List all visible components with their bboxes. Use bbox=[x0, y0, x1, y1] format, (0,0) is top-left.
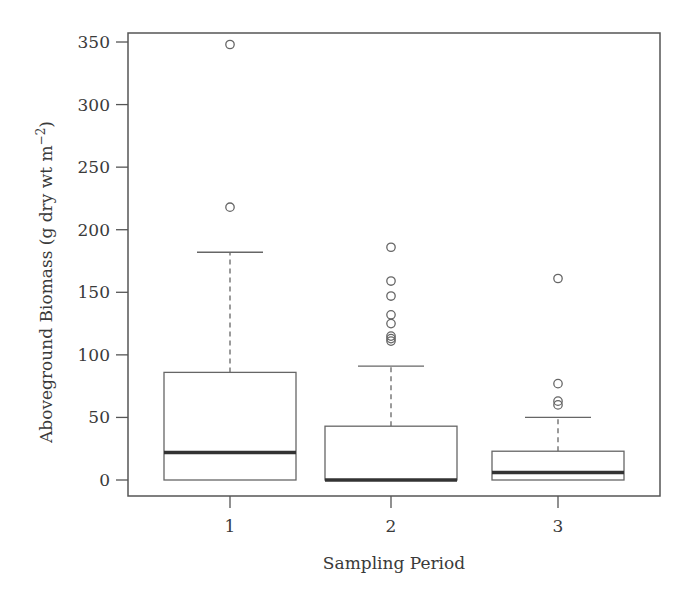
iqr-box bbox=[164, 372, 296, 480]
box-period-2 bbox=[325, 243, 457, 480]
y-tick-label: 50 bbox=[88, 407, 110, 427]
x-tick-label: 3 bbox=[553, 516, 564, 536]
y-axis: 050100150200250300350 bbox=[78, 32, 128, 490]
y-tick-label: 0 bbox=[99, 470, 110, 490]
y-tick-label: 350 bbox=[78, 32, 110, 52]
outlier-point bbox=[387, 311, 395, 319]
outlier-point bbox=[387, 277, 395, 285]
y-tick-label: 150 bbox=[78, 282, 110, 302]
x-tick-label: 1 bbox=[225, 516, 236, 536]
box-period-1 bbox=[164, 40, 296, 480]
outlier-point bbox=[554, 379, 562, 387]
x-axis: 123 bbox=[225, 496, 564, 536]
y-axis-title: Aboveground Biomass (g dry wt m−2) bbox=[34, 121, 56, 444]
y-tick-label: 250 bbox=[78, 157, 110, 177]
y-tick-label: 300 bbox=[78, 95, 110, 115]
boxplot-chart: 050100150200250300350 123 Sampling Perio… bbox=[0, 0, 690, 598]
y-tick-label: 200 bbox=[78, 220, 110, 240]
outlier-point bbox=[226, 40, 234, 48]
x-tick-label: 2 bbox=[386, 516, 397, 536]
y-tick-label: 100 bbox=[78, 345, 110, 365]
outlier-point bbox=[387, 319, 395, 327]
iqr-box bbox=[492, 451, 624, 480]
outlier-point bbox=[554, 274, 562, 282]
outlier-point bbox=[387, 243, 395, 251]
outlier-point bbox=[387, 292, 395, 300]
x-axis-title: Sampling Period bbox=[323, 553, 465, 573]
outlier-point bbox=[226, 203, 234, 211]
boxes bbox=[164, 40, 624, 480]
iqr-box bbox=[325, 426, 457, 480]
box-period-3 bbox=[492, 274, 624, 480]
